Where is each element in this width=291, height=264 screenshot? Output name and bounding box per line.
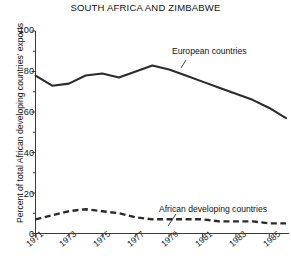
- axes-group: [32, 31, 290, 238]
- y-axis-ticks: [32, 31, 36, 234]
- series-line-european-countries: [36, 65, 287, 118]
- leader-line-european: [181, 60, 186, 68]
- chart-plot-area: [0, 0, 291, 264]
- chart-container: SOUTH AFRICA AND ZIMBABWE Percent of tot…: [0, 0, 291, 264]
- x-axis-ticks: [36, 234, 270, 238]
- series-line-african-developing-countries: [36, 209, 287, 223]
